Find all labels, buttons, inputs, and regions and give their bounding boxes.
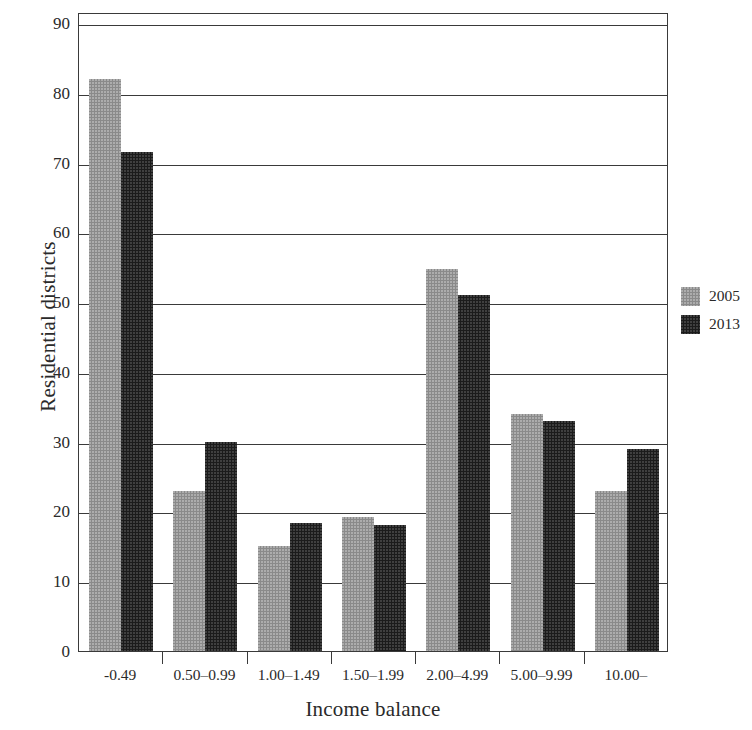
bar-2005-10.00– [595, 491, 627, 651]
bar-2005-0.50–0.99 [173, 491, 205, 651]
legend-swatch-icon [681, 287, 700, 306]
bar-2013-2.00–4.99 [458, 295, 490, 651]
x-axis-tick-label: 2.00–4.99 [426, 666, 488, 684]
bar-2013-5.00–9.99 [543, 421, 575, 651]
x-axis-tick [499, 652, 500, 664]
bar-2013-1.00–1.49 [290, 523, 322, 651]
legend-swatch-icon [681, 315, 700, 334]
bar-2013--0.49 [121, 152, 153, 651]
x-axis-tick [331, 652, 332, 664]
x-axis-tick [162, 652, 163, 664]
bar-chart: Residential districts 010203040506070809… [0, 0, 752, 730]
x-axis-tick [584, 652, 585, 664]
legend-label: 2005 [709, 287, 740, 305]
x-axis-tick-marks [78, 652, 668, 666]
bar-2013-0.50–0.99 [205, 442, 237, 651]
bar-2005-2.00–4.99 [426, 269, 458, 651]
legend-item: 2013 [681, 310, 751, 338]
x-axis-tick-label: 1.50–1.99 [342, 666, 404, 684]
bar-2005--0.49 [89, 79, 121, 651]
x-axis-tick-labels: -0.490.50–0.991.00–1.491.50–1.992.00–4.9… [78, 666, 668, 692]
y-axis-tick-marks [0, 0, 78, 730]
plot-area [78, 13, 668, 652]
bar-2013-1.50–1.99 [374, 525, 406, 651]
x-axis-title: Income balance [78, 697, 668, 722]
x-axis-tick [247, 652, 248, 664]
legend-item: 2005 [681, 282, 751, 310]
bar-2005-1.00–1.49 [258, 546, 290, 651]
bar-2005-1.50–1.99 [342, 517, 374, 651]
bar-2005-5.00–9.99 [511, 414, 543, 651]
bars-layer [79, 14, 667, 651]
x-axis-tick-label: 0.50–0.99 [173, 666, 235, 684]
x-axis-tick-label: 1.00–1.49 [258, 666, 320, 684]
chart-legend: 20052013 [681, 282, 751, 338]
x-axis-tick-label: 5.00–9.99 [511, 666, 573, 684]
legend-label: 2013 [709, 315, 740, 333]
bar-2013-10.00– [627, 449, 659, 651]
x-axis-tick-label: -0.49 [104, 666, 136, 684]
x-axis-tick [415, 652, 416, 664]
x-axis-tick-label: 10.00– [605, 666, 648, 684]
